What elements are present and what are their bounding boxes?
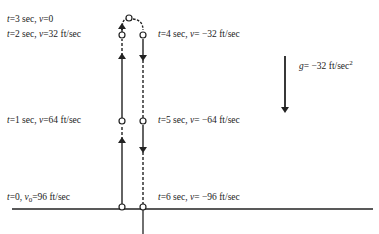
label-t1: t=1 sec, v=64 ft/sec (7, 116, 81, 126)
label-t0: t=0, v0=96 ft/sec (7, 193, 70, 204)
downward-path (133, 19, 143, 204)
label-t4: t=4 sec, v= −32 ft/sec (158, 30, 240, 40)
upward-path (122, 19, 126, 204)
label-t6: t=6 sec, v= −96 ft/sec (158, 193, 240, 203)
position-markers (119, 15, 146, 210)
label-t5: t=5 sec, v= −64 ft/sec (158, 116, 240, 126)
label-t2: t=2 sec, v=32 ft/sec (7, 30, 81, 40)
label-t3: t=3 sec, v=0 (7, 15, 53, 25)
gravity-label: g= −32 ft/sec2 (299, 60, 353, 72)
